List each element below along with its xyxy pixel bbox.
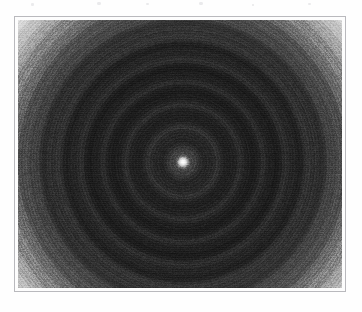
scan-speck — [308, 3, 311, 5]
central-bright-core — [18, 20, 342, 288]
edge-vignette-overlay — [18, 20, 342, 288]
figure-border — [14, 16, 346, 292]
scanline-texture-overlay — [18, 20, 342, 288]
figure-page — [0, 0, 362, 312]
interference-pattern-plate — [18, 20, 342, 288]
scan-speck — [252, 4, 254, 6]
scan-speck — [31, 3, 34, 6]
scan-speck — [146, 3, 149, 5]
scan-speck — [199, 2, 203, 5]
fine-interference-rings — [18, 20, 342, 288]
coarse-interference-rings — [18, 20, 342, 288]
scan-artifact-strip — [0, 0, 362, 12]
scan-speck — [97, 2, 101, 5]
scan-grain-overlay — [18, 20, 342, 288]
radial-intensity-field — [18, 20, 342, 288]
broad-ring-maxima-layer — [18, 20, 342, 288]
